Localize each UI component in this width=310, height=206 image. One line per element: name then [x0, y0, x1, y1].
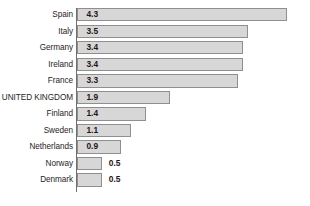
category-label: Ireland [0, 58, 73, 71]
bar-row: UNITED KINGDOM1.9 [0, 91, 310, 108]
bar-row: Spain4.3 [0, 8, 310, 25]
bar-value-label: 0.5 [109, 173, 121, 186]
bar [77, 74, 238, 87]
bar-row: Finland1.4 [0, 107, 310, 124]
plot-area: Spain4.3Italy3.5Germany3.4Ireland3.4Fran… [0, 0, 310, 206]
category-label: Spain [0, 8, 73, 21]
bar [77, 58, 243, 71]
bar [77, 140, 121, 153]
bar-value-label: 3.4 [86, 58, 98, 71]
bar-value-label: 1.1 [86, 124, 98, 137]
bar-value-label: 1.9 [86, 91, 98, 104]
bar-rows-container: Spain4.3Italy3.5Germany3.4Ireland3.4Fran… [0, 8, 310, 190]
bar-row: Netherlands0.9 [0, 140, 310, 157]
bar [77, 25, 248, 38]
category-label: Denmark [0, 173, 73, 186]
horizontal-bar-chart: Spain4.3Italy3.5Germany3.4Ireland3.4Fran… [0, 0, 310, 206]
category-label: Netherlands [0, 140, 73, 153]
bar-row: Sweden1.1 [0, 124, 310, 141]
bar [77, 173, 101, 186]
bar-value-label: 4.3 [86, 8, 98, 21]
bar-row: Italy3.5 [0, 25, 310, 42]
category-label: France [0, 74, 73, 87]
category-label: Italy [0, 25, 73, 38]
bar-value-label: 3.3 [86, 74, 98, 87]
bar-row: Ireland3.4 [0, 58, 310, 75]
category-label: Finland [0, 107, 73, 120]
bar-value-label: 1.4 [86, 107, 98, 120]
bar-value-label: 0.9 [86, 140, 98, 153]
category-label: Sweden [0, 124, 73, 137]
bar-value-label: 0.5 [109, 157, 121, 170]
category-label: UNITED KINGDOM [0, 91, 73, 104]
bar-row: France3.3 [0, 74, 310, 91]
bar-row: Germany3.4 [0, 41, 310, 58]
bar [77, 41, 243, 54]
category-label: Germany [0, 41, 73, 54]
category-label: Norway [0, 157, 73, 170]
bar-row: Denmark0.5 [0, 173, 310, 190]
bar [77, 8, 286, 21]
bar [77, 157, 101, 170]
bar-value-label: 3.4 [86, 41, 98, 54]
bar-row: Norway0.5 [0, 157, 310, 174]
bar-value-label: 3.5 [86, 25, 98, 38]
